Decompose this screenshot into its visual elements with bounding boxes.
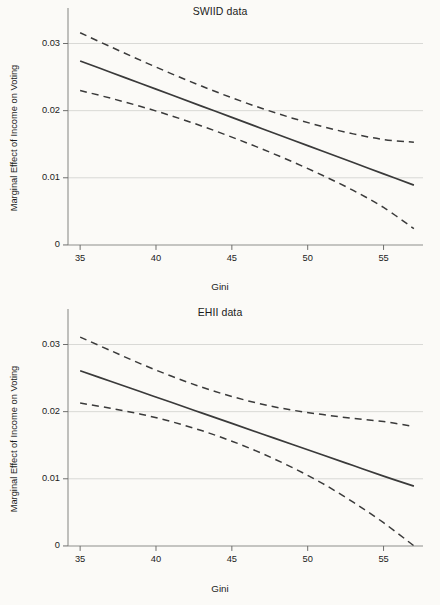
- x-tick-label-4-ehii: 55: [364, 554, 404, 564]
- x-tick-label-1-ehii: 40: [136, 554, 176, 564]
- series-line-1-ehii: [80, 337, 414, 426]
- series-line-2-ehii: [80, 403, 414, 546]
- x-tick-label-2-swiid: 45: [212, 253, 252, 263]
- y-axis-label-ehii: Marginal Effect of Income on Voting: [9, 344, 19, 534]
- x-tick-label-3-swiid: 50: [288, 253, 328, 263]
- chart-panel-ehii: EHII data Marginal Effect of Income on V…: [0, 301, 440, 603]
- plot-area-swiid: [68, 20, 423, 253]
- chart-title-swiid: SWIID data: [0, 5, 440, 17]
- figure-container: SWIID data Marginal Effect of Income on …: [0, 0, 440, 605]
- plot-svg-swiid: [68, 20, 423, 253]
- y-tick-label-1-swiid: 0.01: [16, 172, 60, 182]
- series-line-2-swiid: [80, 91, 414, 229]
- y-axis-label-swiid: Marginal Effect of Income on Voting: [9, 43, 19, 233]
- x-tick-label-0-ehii: 35: [60, 554, 100, 564]
- chart-panel-swiid: SWIID data Marginal Effect of Income on …: [0, 0, 440, 302]
- y-tick-label-2-swiid: 0.02: [16, 105, 60, 115]
- x-tick-label-0-swiid: 35: [60, 253, 100, 263]
- y-tick-label-3-ehii: 0.03: [16, 339, 60, 349]
- x-tick-label-4-swiid: 55: [364, 253, 404, 263]
- series-line-1-swiid: [80, 33, 414, 142]
- y-tick-label-1-ehii: 0.01: [16, 473, 60, 483]
- series-line-0-ehii: [80, 371, 414, 486]
- series-line-0-swiid: [80, 61, 414, 185]
- x-tick-label-1-swiid: 40: [136, 253, 176, 263]
- x-axis-label-swiid: Gini: [0, 281, 440, 292]
- x-axis-label-ehii: Gini: [0, 583, 440, 594]
- x-tick-label-3-ehii: 50: [288, 554, 328, 564]
- plot-area-ehii: [68, 321, 423, 554]
- y-tick-label-2-ehii: 0.02: [16, 406, 60, 416]
- y-tick-label-0-swiid: 0: [16, 239, 60, 249]
- y-tick-label-0-ehii: 0: [16, 540, 60, 550]
- x-tick-label-2-ehii: 45: [212, 554, 252, 564]
- y-tick-label-3-swiid: 0.03: [16, 38, 60, 48]
- plot-svg-ehii: [68, 321, 423, 554]
- chart-title-ehii: EHII data: [0, 306, 440, 318]
